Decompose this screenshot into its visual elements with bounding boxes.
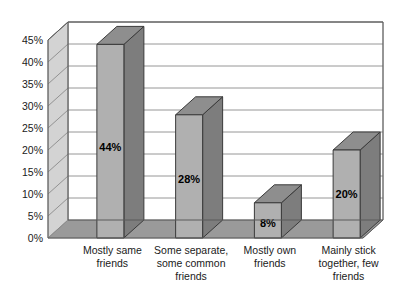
x-axis-category-label: friends [175,270,207,282]
y-axis-tick-label: 15% [22,166,43,178]
y-axis-tick-label: 20% [22,144,43,156]
x-axis-category-label: Some separate, [154,244,228,256]
chart-side-wall [48,22,68,238]
x-axis-category-label: friends [254,257,286,269]
x-axis-category-label: friends [333,270,365,282]
bar-value-label: 20% [336,188,358,200]
bar-column: 44% [97,26,144,238]
y-axis-tick-label: 35% [22,78,43,90]
y-axis-tick-label: 45% [22,34,43,46]
bar-column: 20% [333,132,380,238]
bar-value-label: 44% [99,141,121,153]
bar-chart: 0%5%10%15%20%25%30%35%40%45%44%28%8%20%M… [0,0,407,293]
bar-side-face [124,26,144,238]
bar-value-label: 28% [178,173,200,185]
bar-value-label: 8% [260,217,276,229]
x-axis-category-label: Mostly same [83,244,142,256]
x-axis-category-label: Mostly own [244,244,297,256]
x-axis-category-label: together, few [319,257,380,269]
y-axis-tick-label: 5% [28,210,43,222]
y-axis-tick-label: 10% [22,188,43,200]
chart-container: 0%5%10%15%20%25%30%35%40%45%44%28%8%20%M… [0,0,407,293]
y-axis-tick-label: 40% [22,56,43,68]
y-axis-tick-label: 25% [22,122,43,134]
x-axis-category-label: Mainly stick [321,244,376,256]
bar-column: 28% [176,97,223,238]
y-axis-tick-label: 0% [28,232,43,244]
x-axis-category-label: friends [97,257,129,269]
x-axis-category-label: some common [157,257,226,269]
y-axis-tick-label: 30% [22,100,43,112]
bar-side-face [203,97,223,238]
